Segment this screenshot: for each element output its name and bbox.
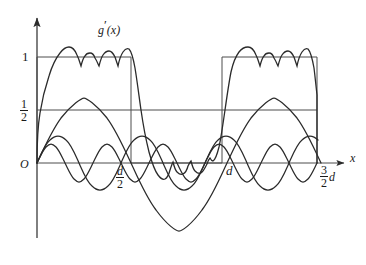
origin-label: O (20, 158, 29, 170)
fraction-d-over-2: d 2 (116, 165, 124, 190)
curve-label-g-prime: g′(x) (98, 24, 120, 36)
fraction-numerator: 1 (20, 98, 28, 110)
x-tick-label-three-halves-d: 3 2 d (320, 164, 335, 189)
x-tick-label-d: d (226, 164, 233, 177)
curve-label-argument: (x) (107, 23, 120, 37)
y-tick-label-one: 1 (22, 50, 29, 63)
axis-group (37, 18, 344, 238)
fourier-square-wave-figure: 1 1 2 O d 2 d 3 2 d x g′(x) (0, 0, 366, 265)
three-halves-d-suffix: d (329, 171, 335, 183)
plot-canvas (0, 0, 366, 265)
fraction-denominator: 2 (20, 110, 28, 123)
x-axis-label: x (350, 152, 355, 164)
fraction-denominator: 2 (116, 177, 124, 190)
fraction-one-half: 1 2 (20, 98, 28, 123)
x-axis-label-text: x (350, 151, 355, 165)
fraction-three-halves: 3 2 (320, 164, 328, 189)
y-tick-label-one-half: 1 2 (20, 98, 28, 123)
fraction-denominator: 2 (320, 176, 328, 189)
fraction-numerator: 3 (320, 164, 328, 176)
partial-sum-curve (37, 47, 317, 179)
three-halves-d-row: 3 2 d (320, 164, 335, 189)
fraction-numerator: d (116, 165, 124, 177)
x-tick-label-d-over-2: d 2 (116, 165, 124, 190)
